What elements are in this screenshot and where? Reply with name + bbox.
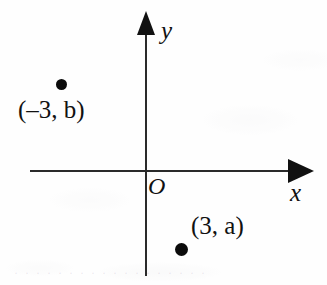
bottom-bleedthrough-artifact: · · · · · · · · · · · · · · · · · · — [14, 266, 314, 281]
coordinate-plane-figure: y x O (–3, b) (3, a) · · · · · · · · · ·… — [0, 0, 327, 285]
origin-label: O — [148, 174, 165, 198]
plotted-point-label: (–3, b) — [18, 97, 85, 122]
x-axis-line — [30, 170, 292, 172]
y-axis-line — [145, 30, 147, 276]
plotted-point-label: (3, a) — [191, 213, 244, 238]
plotted-point-marker — [56, 79, 67, 90]
y-axis-arrowhead-icon — [137, 11, 155, 35]
y-axis-label: y — [161, 18, 172, 43]
x-axis-label: x — [290, 180, 301, 205]
plotted-point-marker — [175, 243, 188, 256]
